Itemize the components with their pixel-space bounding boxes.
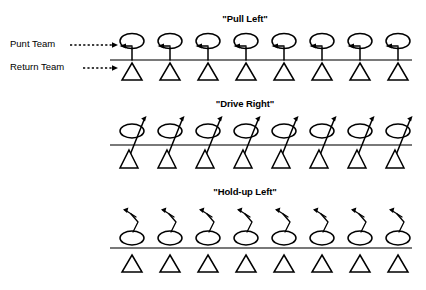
formation-diagram: "Pull Left" Punt Team Return Team — [0, 0, 426, 290]
panel-hold-up-left-graphics — [0, 0, 426, 290]
return-player-hold-up-left — [198, 255, 218, 272]
return-player-hold-up-left — [388, 255, 408, 272]
return-player-hold-up-left — [312, 255, 332, 272]
return-player-hold-up-left — [160, 255, 180, 272]
punt-player-hold-up-left — [348, 208, 372, 246]
punt-player-hold-up-left — [386, 208, 410, 246]
punt-player-hold-up-left — [158, 208, 182, 246]
return-player-hold-up-left — [350, 255, 370, 272]
return-player-hold-up-left — [122, 255, 142, 272]
punt-player-hold-up-left — [310, 208, 334, 246]
punt-player-hold-up-left — [120, 208, 144, 246]
punt-player-hold-up-left — [196, 208, 220, 246]
return-player-hold-up-left — [274, 255, 294, 272]
punt-player-hold-up-left — [272, 208, 296, 246]
punt-player-hold-up-left — [234, 208, 258, 246]
return-player-hold-up-left — [236, 255, 256, 272]
